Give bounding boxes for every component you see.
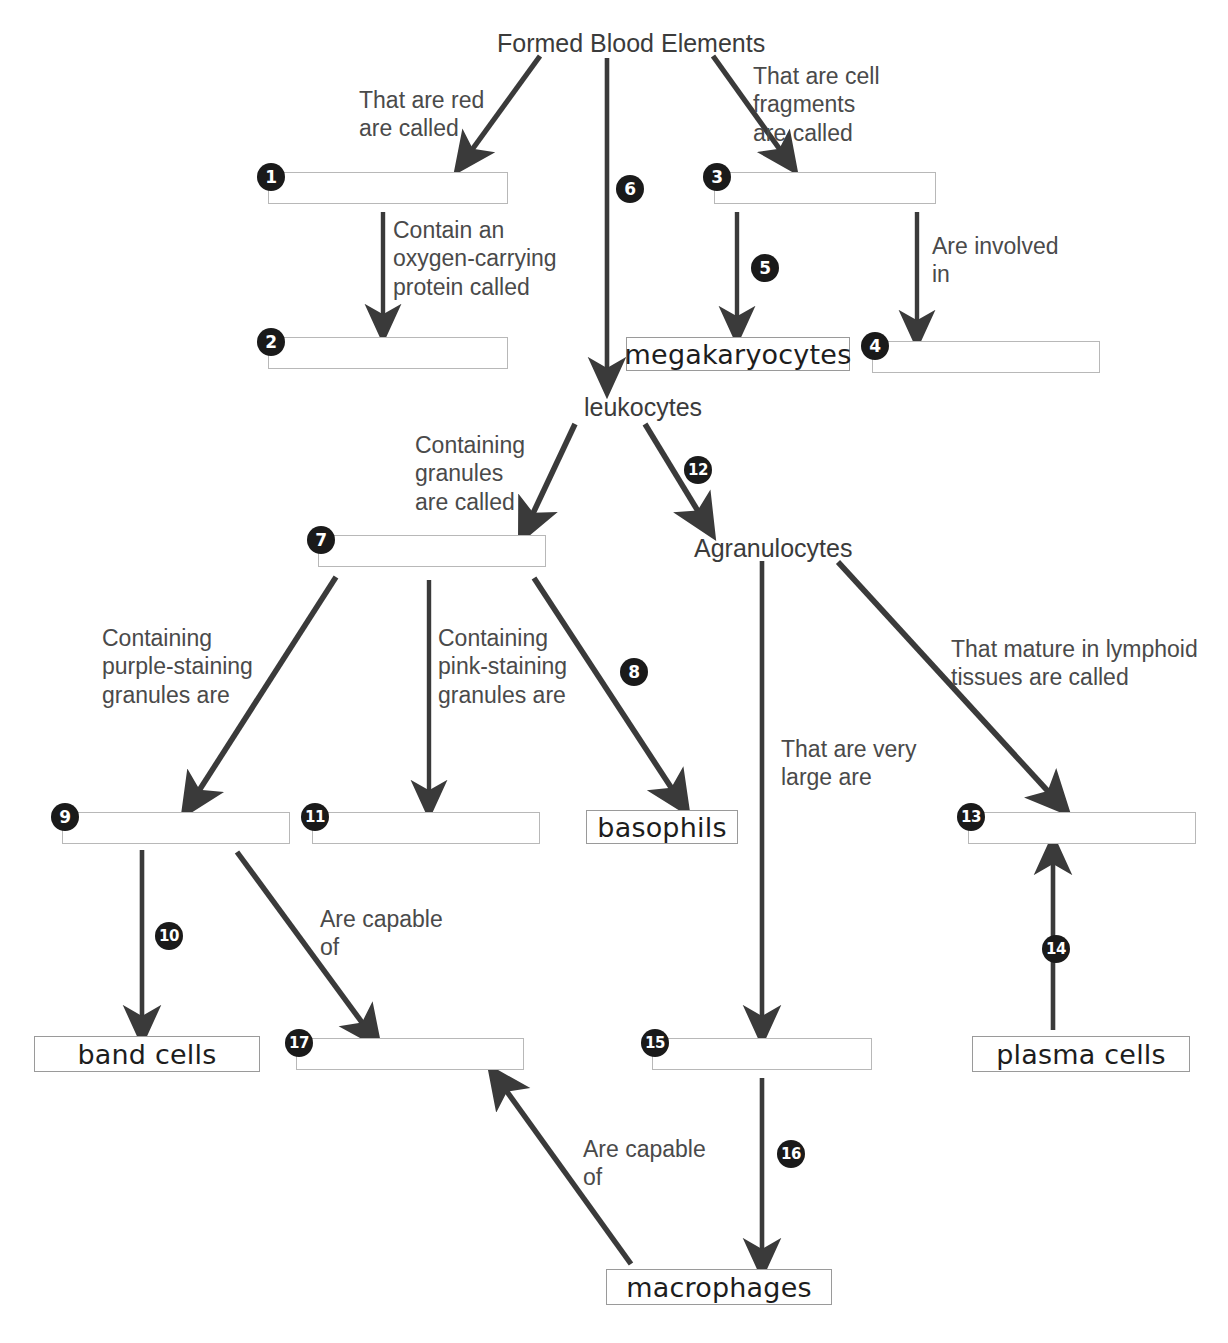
- edge-label-mature-in-lymphoid-tissues: That mature in lymphoid tissues are call…: [951, 635, 1198, 692]
- edge-leukocytes-to-7: [528, 424, 575, 524]
- connector-number-10: 10: [155, 922, 183, 950]
- term-box-plasma-cells: plasma cells: [972, 1036, 1190, 1072]
- connector-number-14: 14: [1042, 935, 1070, 963]
- connector-number-5: 5: [751, 254, 779, 282]
- answer-box-17[interactable]: [296, 1038, 524, 1070]
- node-agranulocytes: Agranulocytes: [694, 535, 852, 561]
- answer-number-2: 2: [257, 328, 285, 356]
- answer-box-15[interactable]: [652, 1038, 872, 1070]
- concept-map-canvas: Formed Blood Elements leukocytes Agranul…: [0, 0, 1228, 1343]
- answer-number-9: 9: [51, 803, 79, 831]
- edge-label-contain-oxygen-carrying-protein: Contain an oxygen-carrying protein calle…: [393, 216, 557, 301]
- edge-label-are-involved-in: Are involved in: [932, 232, 1059, 289]
- edge-label-are-capable-of-lower: Are capable of: [583, 1135, 706, 1192]
- edge-label-are-capable-of-upper: Are capable of: [320, 905, 443, 962]
- term-box-megakaryocytes: megakaryocytes: [626, 337, 850, 371]
- answer-box-11[interactable]: [312, 812, 540, 844]
- answer-number-17: 17: [285, 1029, 313, 1057]
- answer-number-1: 1: [257, 163, 285, 191]
- answer-number-11: 11: [301, 803, 329, 831]
- answer-number-4: 4: [861, 332, 889, 360]
- answer-box-1[interactable]: [268, 172, 508, 204]
- edge-label-that-are-cell-fragments-are-called: That are cell fragments are called: [753, 62, 880, 147]
- node-formed-blood-elements: Formed Blood Elements: [497, 30, 765, 56]
- node-leukocytes: leukocytes: [584, 394, 702, 420]
- answer-number-7: 7: [307, 526, 335, 554]
- connector-number-16: 16: [777, 1140, 805, 1168]
- connector-number-8: 8: [620, 658, 648, 686]
- answer-box-7[interactable]: [318, 535, 546, 567]
- edge-label-that-are-very-large: That are very large are: [781, 735, 917, 792]
- edge-label-containing-granules-are-called: Containing granules are called: [415, 431, 525, 516]
- answer-box-3[interactable]: [714, 172, 936, 204]
- answer-number-15: 15: [641, 1029, 669, 1057]
- answer-number-3: 3: [703, 163, 731, 191]
- term-box-macrophages: macrophages: [606, 1269, 832, 1305]
- answer-box-13[interactable]: [968, 812, 1196, 844]
- connector-number-6: 6: [616, 175, 644, 203]
- edge-label-pink-staining-granules: Containing pink-staining granules are: [438, 624, 567, 709]
- edge-label-purple-staining-granules: Containing purple-staining granules are: [102, 624, 253, 709]
- answer-box-9[interactable]: [62, 812, 290, 844]
- edge-label-that-are-red-are-called: That are red are called: [359, 86, 484, 143]
- connector-number-12: 12: [684, 456, 712, 484]
- answer-number-13: 13: [957, 803, 985, 831]
- term-box-basophils: basophils: [586, 810, 738, 844]
- answer-box-2[interactable]: [268, 337, 508, 369]
- term-box-band-cells: band cells: [34, 1036, 260, 1072]
- answer-box-4[interactable]: [872, 341, 1100, 373]
